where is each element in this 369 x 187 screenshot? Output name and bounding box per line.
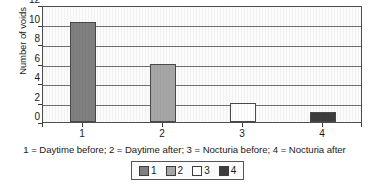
bar-2 <box>150 64 176 123</box>
y-axis-tick-label: 8 <box>20 34 40 44</box>
x-axis-tick-mark <box>162 123 163 127</box>
x-axis-tick-mark <box>361 123 362 127</box>
y-axis-tick-label: 6 <box>20 54 40 64</box>
chart-caption: 1 = Daytime before; 2 = Daytime after; 3… <box>0 144 369 156</box>
y-axis-tick-labels: 024681012 <box>20 0 40 130</box>
legend-entry-4: 4 <box>219 166 237 176</box>
x-axis: 1234 <box>42 123 362 145</box>
legend-label: 4 <box>231 166 237 176</box>
legend-label: 2 <box>178 166 184 176</box>
x-axis-tick-mark <box>242 123 243 127</box>
y-axis-tick-label: 4 <box>20 73 40 83</box>
y-axis-tick-label: 2 <box>20 93 40 103</box>
legend-swatch <box>139 166 149 176</box>
y-axis-tick-label: 0 <box>20 112 40 122</box>
bar-chart-figure: Number of voids 024681012 1234 1 = Dayti… <box>0 0 369 187</box>
legend-entry-3: 3 <box>192 166 210 176</box>
legend-swatch <box>192 166 202 176</box>
x-axis-tick-label: 4 <box>302 128 342 139</box>
bar-3 <box>230 103 256 123</box>
legend-swatch <box>219 166 229 176</box>
x-axis-tick-label: 3 <box>222 128 262 139</box>
bar-1 <box>70 22 96 122</box>
x-axis-tick-mark <box>82 123 83 127</box>
chart-legend: 1234 <box>131 161 244 180</box>
x-axis-tick-label: 1 <box>62 128 102 139</box>
y-axis-tick-label: 10 <box>20 15 40 25</box>
legend-label: 1 <box>151 166 157 176</box>
y-axis-tick-label: 12 <box>20 0 40 5</box>
x-axis-tick-mark <box>322 123 323 127</box>
legend-swatch <box>166 166 176 176</box>
bar-4 <box>310 112 336 122</box>
x-axis-tick-label: 2 <box>142 128 182 139</box>
x-axis-tick-mark <box>42 123 43 127</box>
legend-entry-1: 1 <box>139 166 157 176</box>
plot-area <box>42 6 362 123</box>
legend-entry-2: 2 <box>166 166 184 176</box>
legend-label: 3 <box>204 166 210 176</box>
plot-inner <box>43 7 361 122</box>
